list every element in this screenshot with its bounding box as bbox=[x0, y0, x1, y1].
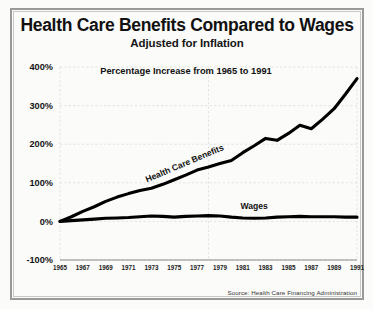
x-tick-label: 1971 bbox=[122, 264, 137, 271]
chart-figure: Health Care Benefits Compared to Wages A… bbox=[0, 0, 373, 309]
x-tick-label: 1987 bbox=[304, 264, 319, 271]
x-tick-label: 1989 bbox=[327, 264, 342, 271]
y-tick-label: 100% bbox=[30, 178, 54, 188]
chart-annotation: Percentage Increase from 1965 to 1991 bbox=[100, 66, 272, 76]
y-axis-ticks: 400%300%200%100%0%-100% bbox=[26, 62, 53, 265]
page-title: Health Care Benefits Compared to Wages bbox=[14, 12, 360, 34]
x-tick-label: 1965 bbox=[53, 264, 68, 271]
x-tick-label: 1973 bbox=[144, 264, 159, 271]
x-tick-label: 1991 bbox=[350, 264, 365, 271]
chart-subtitle: Adjusted for Inflation bbox=[14, 34, 360, 49]
x-tick-label: 1985 bbox=[281, 264, 296, 271]
source-attribution: Source: Health Care Financing Administra… bbox=[227, 289, 357, 296]
x-axis-ticks: 1965196719691971197319751977197919811983… bbox=[53, 264, 365, 271]
x-tick-label: 1979 bbox=[213, 264, 228, 271]
grid-lines bbox=[60, 67, 357, 260]
y-tick-label: 300% bbox=[30, 101, 54, 111]
title-block: Health Care Benefits Compared to Wages A… bbox=[14, 12, 360, 49]
y-tick-label: 0% bbox=[40, 217, 53, 227]
y-tick-label: -100% bbox=[26, 255, 53, 265]
series-label-wages: Wages bbox=[240, 201, 268, 211]
x-tick-label: 1969 bbox=[99, 264, 114, 271]
x-tick-label: 1977 bbox=[190, 264, 205, 271]
series-label-health-care-benefits: Health Care Benefits bbox=[144, 142, 225, 184]
series-labels: Health Care BenefitsWages bbox=[144, 142, 268, 211]
y-tick-label: 200% bbox=[30, 139, 54, 149]
x-tick-label: 1983 bbox=[259, 264, 274, 271]
y-tick-label: 400% bbox=[30, 62, 54, 72]
x-tick-label: 1975 bbox=[167, 264, 182, 271]
x-tick-label: 1967 bbox=[76, 264, 91, 271]
x-tick-label: 1981 bbox=[236, 264, 251, 271]
